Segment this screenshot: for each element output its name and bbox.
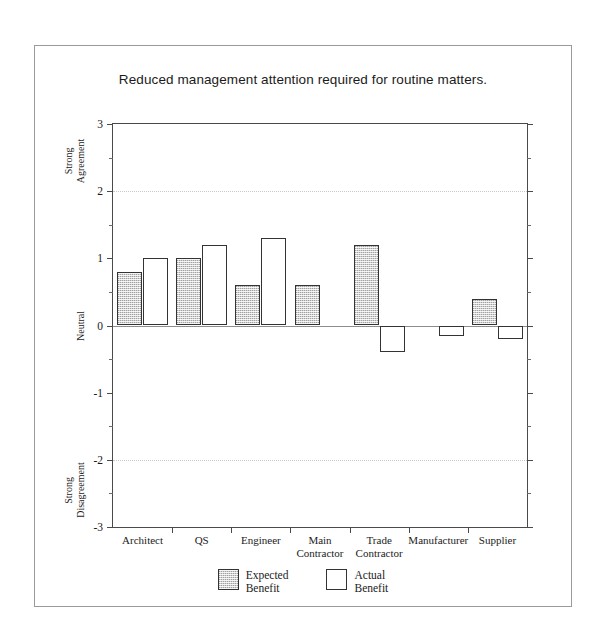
y-minor-tick: [109, 292, 113, 293]
bar-qs-expected: [176, 258, 201, 325]
legend-swatch-actual: [326, 569, 347, 590]
y-tick-3: [527, 124, 533, 125]
legend-item: Expected Benefit: [218, 569, 289, 594]
plot-inner: 3210-1-2-3Strong AgreementNeutralStrong …: [113, 124, 527, 527]
x-tick: [290, 527, 291, 533]
x-tick: [172, 527, 173, 533]
legend-item: Actual Benefit: [326, 569, 388, 594]
bar-qs-actual: [202, 245, 227, 326]
x-tick: [409, 527, 410, 533]
legend-label: Actual Benefit: [354, 569, 388, 594]
y-tick--2: [527, 460, 533, 461]
y-tick--1: [527, 393, 533, 394]
y-tick-3: [107, 124, 113, 125]
y-minor-tick: [527, 426, 531, 427]
y-tick-0: [527, 326, 533, 327]
y-tick-2: [107, 191, 113, 192]
x-axis-label-supplier: Supplier: [479, 534, 516, 547]
figure-frame: Reduced management attention required fo…: [34, 45, 572, 607]
bar-manufacturer-actual: [439, 326, 464, 336]
y-tick-1: [527, 258, 533, 259]
y-tick--3: [107, 527, 113, 528]
y-tick-label--2: -2: [93, 454, 103, 466]
y-minor-tick: [527, 359, 531, 360]
bar-architect-expected: [117, 272, 142, 326]
y-tick-label--1: -1: [93, 387, 103, 399]
y-tick-label-1: 1: [97, 252, 103, 264]
y-minor-tick: [109, 426, 113, 427]
bar-engineer-actual: [261, 238, 286, 325]
x-axis-label-qs: QS: [195, 534, 209, 547]
gridline-2: [113, 191, 527, 192]
y-minor-tick: [527, 292, 531, 293]
y-tick-label-2: 2: [97, 185, 103, 197]
zero-axis-line: [113, 326, 527, 327]
y-tick--3: [527, 527, 533, 528]
y-tick-1: [107, 258, 113, 259]
gridline--2: [113, 460, 527, 461]
legend-label: Expected Benefit: [246, 569, 289, 594]
bar-architect-actual: [143, 258, 168, 325]
y-axis-anchor-label: Neutral: [75, 311, 87, 341]
y-minor-tick: [527, 225, 531, 226]
x-axis-label-engineer: Engineer: [241, 534, 281, 547]
chart-legend: Expected BenefitActual Benefit: [35, 569, 571, 594]
y-tick-label--3: -3: [93, 521, 103, 533]
x-axis-label-architect: Architect: [122, 534, 163, 547]
x-tick: [231, 527, 232, 533]
y-tick-label-3: 3: [97, 118, 103, 130]
chart-title: Reduced management attention required fo…: [35, 72, 571, 87]
y-tick-0: [107, 326, 113, 327]
y-tick-label-0: 0: [97, 320, 103, 332]
bar-engineer-expected: [235, 285, 260, 325]
y-axis-anchor-label: Strong Disagreement: [63, 462, 87, 518]
y-minor-tick: [527, 493, 531, 494]
y-minor-tick: [109, 493, 113, 494]
plot-area: 3210-1-2-3Strong AgreementNeutralStrong …: [112, 123, 528, 528]
bar-trade-contractor-expected: [354, 245, 379, 326]
y-tick--2: [107, 460, 113, 461]
y-minor-tick: [109, 225, 113, 226]
legend-swatch-expected: [218, 569, 239, 590]
bar-supplier-expected: [472, 299, 497, 326]
y-minor-tick: [109, 359, 113, 360]
y-minor-tick: [527, 158, 531, 159]
y-axis-anchor-label: Strong Agreement: [63, 139, 87, 183]
bar-main-contractor-expected: [295, 285, 320, 325]
bar-supplier-actual: [498, 326, 523, 339]
x-tick: [350, 527, 351, 533]
x-axis-label-trade-contractor: Trade Contractor: [356, 534, 403, 559]
x-axis-label-manufacturer: Manufacturer: [408, 534, 468, 547]
y-minor-tick: [109, 158, 113, 159]
bar-trade-contractor-actual: [380, 326, 405, 353]
y-tick--1: [107, 393, 113, 394]
y-tick-2: [527, 191, 533, 192]
x-tick: [468, 527, 469, 533]
x-axis-label-main-contractor: Main Contractor: [296, 534, 343, 559]
